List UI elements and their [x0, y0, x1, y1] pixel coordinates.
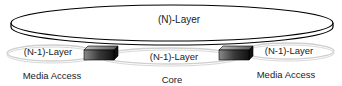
sub-layer-center-label: (N-1)-Layer	[150, 52, 199, 62]
domain-label-left: Media Access	[23, 71, 82, 81]
top-layer-label: (N)-Layer	[158, 15, 200, 25]
domain-label-center: Core	[162, 75, 183, 85]
connector-box-right	[219, 46, 253, 60]
sub-layer-left-label: (N-1)-Layer	[24, 47, 73, 57]
sub-layer-right-label: (N-1)-Layer	[265, 46, 314, 56]
connector-box-left	[84, 46, 118, 60]
domain-label-right: Media Access	[257, 70, 316, 80]
top-layer-disc	[11, 5, 333, 45]
